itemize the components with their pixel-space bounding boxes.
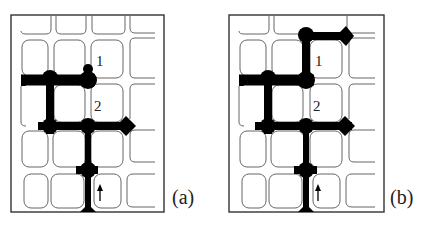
panel-b: 1 2 (229, 15, 384, 212)
panel-b-up-arrow-icon (315, 184, 321, 201)
panel-b-cell-label-1: 1 (315, 53, 323, 69)
panel-a-cell-label-1: 1 (96, 53, 104, 69)
panel-b-label: (b) (390, 186, 413, 209)
panel-a-cell-label-2: 2 (94, 98, 102, 114)
panel-a-up-arrow-icon (97, 184, 103, 201)
panel-b-cell-label-2: 2 (313, 98, 321, 114)
panel-a-channels (21, 64, 136, 212)
panel-a-label: (a) (172, 186, 194, 209)
panel-b-channels (239, 26, 355, 212)
panel-a: 1 2 (11, 15, 164, 212)
diagram-canvas: 1 2 (0, 0, 424, 227)
